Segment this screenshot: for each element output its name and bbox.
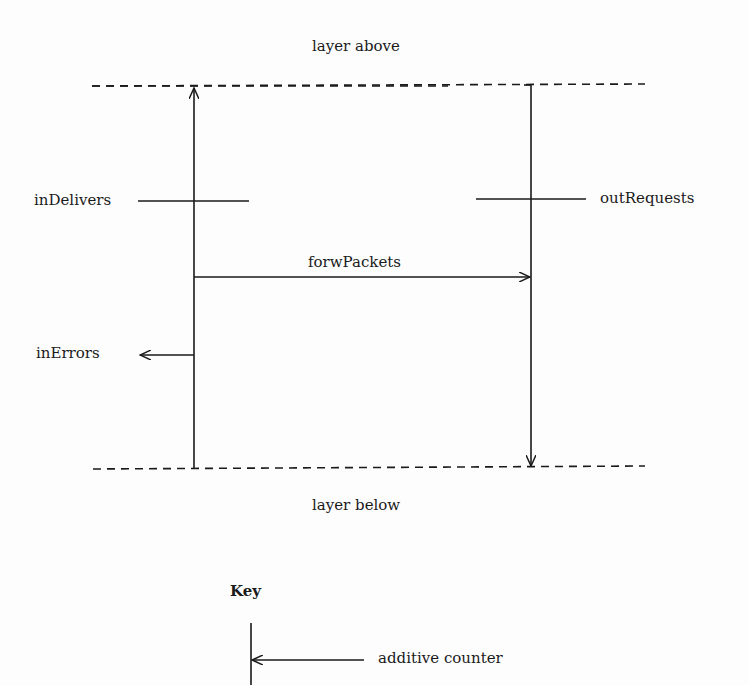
forw-packets-label: forwPackets bbox=[308, 253, 401, 271]
top-layer-boundary bbox=[92, 84, 645, 86]
key-additive-counter-label: additive counter bbox=[378, 649, 503, 667]
key-title: Key bbox=[230, 582, 261, 600]
flow-diagram bbox=[0, 0, 749, 685]
out-requests-label: outRequests bbox=[600, 189, 694, 207]
in-errors-label: inErrors bbox=[36, 344, 100, 362]
layer-above-label: layer above bbox=[312, 37, 400, 55]
bottom-layer-boundary bbox=[93, 466, 645, 469]
in-delivers-label: inDelivers bbox=[34, 191, 111, 209]
layer-below-label: layer below bbox=[312, 496, 400, 514]
